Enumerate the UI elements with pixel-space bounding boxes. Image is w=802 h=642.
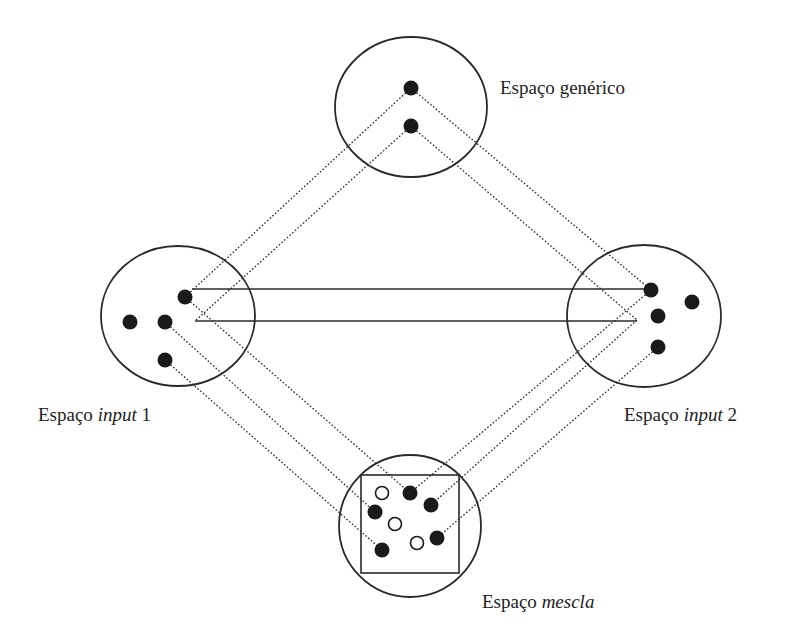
- hollow-element-blend: [376, 487, 389, 500]
- filled-element-input2: [685, 295, 700, 310]
- filled-element-blend: [368, 505, 383, 520]
- filled-element-blend: [424, 498, 439, 513]
- dotted-link: [165, 360, 382, 550]
- label-input1-space: Espaço input 1: [38, 405, 151, 424]
- filled-element-generic: [404, 119, 419, 134]
- label-prefix: Espaço: [624, 404, 679, 425]
- dotted-link: [165, 322, 375, 512]
- space-circle-input2: [567, 245, 721, 387]
- dotted-link: [411, 126, 637, 320]
- label-prefix: Espaço: [500, 77, 555, 98]
- label-prefix: Espaço: [482, 591, 537, 612]
- filled-element-input2: [651, 309, 666, 324]
- label-term: input: [98, 404, 137, 425]
- hollow-element-blend: [389, 518, 402, 531]
- dotted-link: [195, 126, 411, 321]
- dotted-link: [411, 88, 651, 290]
- space-circle-generic: [335, 37, 487, 177]
- filled-element-input1: [158, 353, 173, 368]
- solid-links: [192, 289, 645, 321]
- label-term: input: [684, 404, 723, 425]
- label-suffix: 1: [141, 404, 151, 425]
- filled-element-input1: [123, 315, 138, 330]
- label-term: genérico: [560, 77, 625, 98]
- filled-element-input2: [651, 340, 666, 355]
- label-suffix: 2: [727, 404, 737, 425]
- filled-element-blend: [430, 531, 445, 546]
- filled-element-generic: [404, 81, 419, 96]
- label-input2-space: Espaço input 2: [624, 405, 737, 424]
- label-blend-space: Espaço mescla: [482, 592, 594, 611]
- filled-element-input1: [158, 315, 173, 330]
- label-term: mescla: [542, 591, 595, 612]
- dotted-link: [185, 88, 411, 297]
- hollow-element-blend: [411, 537, 424, 550]
- dotted-links: [165, 88, 658, 550]
- space-circle-input1: [101, 246, 255, 386]
- filled-element-blend: [403, 486, 418, 501]
- filled-element-input1: [178, 290, 193, 305]
- label-generic-space: Espaço genérico: [500, 78, 625, 97]
- dotted-link: [437, 347, 658, 538]
- label-prefix: Espaço: [38, 404, 93, 425]
- filled-element-blend: [375, 543, 390, 558]
- blending-diagram: [0, 0, 802, 642]
- elements: [123, 81, 700, 558]
- filled-element-input2: [644, 283, 659, 298]
